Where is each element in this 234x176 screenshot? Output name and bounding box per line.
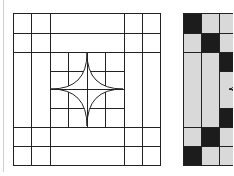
dark-patch xyxy=(184,14,202,34)
shaded-quilt-block xyxy=(184,14,234,166)
dark-patch xyxy=(202,34,220,53)
light-patch xyxy=(220,128,234,147)
dark-patch xyxy=(202,128,220,147)
dark-patch xyxy=(220,109,234,128)
dark-patch xyxy=(184,147,202,166)
outline-quilt-block xyxy=(13,13,161,166)
dark-patch xyxy=(220,53,234,72)
light-patch xyxy=(220,14,234,34)
light-patch xyxy=(220,34,234,53)
light-patch xyxy=(184,34,202,53)
light-patch xyxy=(202,147,220,166)
light-patch xyxy=(202,14,220,34)
light-patch xyxy=(184,128,202,147)
light-patch xyxy=(220,147,234,166)
quilt-diagram-canvas xyxy=(0,0,233,176)
light-patch xyxy=(202,53,220,128)
light-patch xyxy=(184,53,202,128)
